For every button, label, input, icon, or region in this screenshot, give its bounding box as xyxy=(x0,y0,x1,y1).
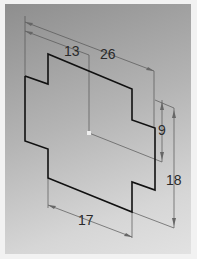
dimension-26: 26 xyxy=(100,46,116,62)
dimension-9: 9 xyxy=(158,122,166,138)
sketch-canvas: 13 26 9 18 17 xyxy=(0,0,197,259)
dimension-17: 17 xyxy=(78,212,94,228)
center-point xyxy=(87,131,91,135)
dimension-18: 18 xyxy=(166,172,182,188)
dimension-13: 13 xyxy=(64,43,80,59)
